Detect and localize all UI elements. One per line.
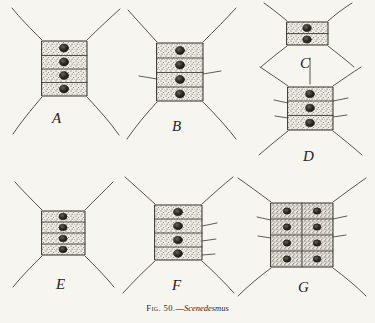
- figure-label-e: E: [56, 276, 65, 293]
- figure-F: [123, 177, 234, 293]
- figure-D: [259, 58, 362, 155]
- caption-figure-number: Fig. 50.: [146, 303, 175, 313]
- figure-label-f: F: [172, 277, 181, 294]
- figure-plate: A B C D E F G Fig. 50.—Scenedesmus: [0, 0, 375, 323]
- figure-label-c: C: [300, 55, 310, 72]
- figure-A: [12, 8, 120, 135]
- figure-label-b: B: [172, 118, 181, 135]
- caption-dash: —: [175, 303, 184, 313]
- figure-B: [127, 8, 236, 139]
- scenedesmus-illustration: [0, 0, 375, 323]
- figure-label-g: G: [298, 279, 309, 296]
- figure-caption: Fig. 50.—Scenedesmus: [0, 303, 375, 313]
- caption-taxon-name: Scenedesmus: [184, 303, 229, 313]
- figure-E: [13, 182, 114, 287]
- figure-label-a: A: [52, 110, 61, 127]
- figure-label-d: D: [303, 148, 314, 165]
